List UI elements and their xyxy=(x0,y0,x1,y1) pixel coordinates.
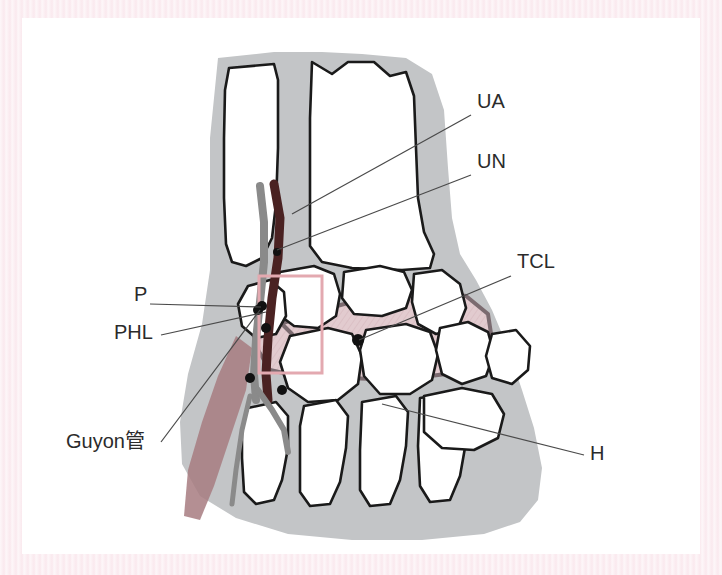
pisohamate-marker xyxy=(261,323,271,333)
scanned-page-background: UAUNTCLPPHLGuyon管H xyxy=(0,0,722,575)
label-pisiform: P xyxy=(134,284,147,304)
label-pisohamate-ligament: PHL xyxy=(114,322,153,342)
deep-branch-marker xyxy=(277,385,287,395)
bone-trapezoid xyxy=(436,322,494,384)
label-guyon-canal: Guyon管 xyxy=(66,431,145,451)
figure-page: UAUNTCLPPHLGuyon管H xyxy=(22,18,700,554)
label-ulnar-nerve: UN xyxy=(477,151,506,171)
hook-of-hamate-marker xyxy=(245,373,255,383)
wrist-anatomy-figure xyxy=(22,18,700,554)
label-hamate: H xyxy=(590,443,604,463)
label-transverse-carpal-ligament: TCL xyxy=(517,251,555,271)
bone-trapezium xyxy=(486,330,530,384)
label-ulnar-artery: UA xyxy=(477,91,505,111)
bone-lunate xyxy=(342,266,412,316)
transverse-carpal-ligament-marker xyxy=(352,334,364,346)
bone-distal-carpal-row-extra xyxy=(424,388,504,450)
bone-ulna xyxy=(224,64,278,266)
